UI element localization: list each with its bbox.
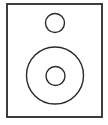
- speaker-icon: [0, 0, 108, 125]
- speaker-cabinet: [7, 4, 102, 117]
